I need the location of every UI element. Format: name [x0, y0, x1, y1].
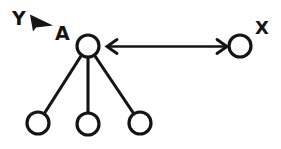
diagram-canvas: Y A X: [0, 0, 281, 149]
node-a[interactable]: [77, 35, 99, 57]
edge-a-to-child-1: [44, 56, 81, 114]
label-x: X: [255, 17, 269, 38]
node-link-diagram: Y A X: [0, 0, 281, 149]
node-x[interactable]: [229, 35, 251, 57]
node-child-1[interactable]: [27, 112, 49, 134]
node-child-3[interactable]: [129, 112, 151, 134]
label-a: A: [55, 22, 70, 44]
y-pointer-dart-icon: [30, 15, 53, 32]
node-child-2[interactable]: [77, 113, 99, 135]
label-y: Y: [11, 7, 26, 29]
edge-a-to-child-3: [95, 56, 134, 114]
